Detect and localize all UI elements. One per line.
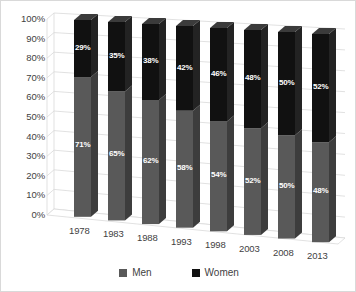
- y-axis-tick-0pct: 0%: [3, 210, 45, 219]
- data-label-men: 58%: [177, 163, 192, 172]
- y-axis-tick-90pct: 90%: [3, 34, 45, 43]
- x-axis-tick-2013: 2013: [307, 250, 328, 261]
- bar-side-men: [227, 116, 234, 232]
- y-axis-tick-40pct: 40%: [3, 132, 45, 141]
- data-label-men: 50%: [279, 181, 294, 190]
- bar-side-women: [261, 24, 268, 128]
- chart-svg: [1, 1, 356, 292]
- legend-swatch-men-icon: [119, 269, 127, 277]
- bar-side-women: [295, 26, 302, 135]
- legend-label: Women: [205, 267, 239, 278]
- x-axis-tick-2003: 2003: [239, 243, 260, 254]
- y-axis-tick-70pct: 70%: [3, 73, 45, 82]
- data-label-men: 48%: [313, 186, 328, 195]
- y-axis: 100%90%80%70%60%50%40%30%20%10%0%: [1, 1, 45, 292]
- chart-container: 100%90%80%70%60%50%40%30%20%10%0% 197819…: [0, 0, 356, 292]
- data-label-men: 71%: [75, 140, 90, 149]
- data-label-women: 38%: [143, 56, 158, 65]
- data-label-women: 52%: [313, 82, 328, 91]
- data-label-women: 46%: [211, 69, 226, 78]
- data-label-men: 65%: [109, 149, 124, 158]
- bar-side-women: [329, 28, 336, 142]
- data-label-men: 54%: [211, 170, 226, 179]
- y-axis-tick-10pct: 10%: [3, 190, 45, 199]
- bars-group: [74, 14, 336, 242]
- data-label-women: 42%: [177, 63, 192, 72]
- x-axis-tick-2008: 2008: [273, 247, 294, 258]
- x-axis-tick-1993: 1993: [171, 236, 192, 247]
- bar-side-men: [159, 94, 166, 224]
- x-axis-tick-1983: 1983: [103, 228, 124, 239]
- plot-area: [1, 1, 356, 292]
- bar-side-women: [193, 20, 200, 111]
- x-axis-tick-1998: 1998: [205, 239, 226, 250]
- bar-side-women: [125, 16, 132, 91]
- y-axis-tick-100pct: 100%: [3, 14, 45, 23]
- bar-side-men: [125, 85, 132, 220]
- y-axis-tick-60pct: 60%: [3, 92, 45, 101]
- legend-label: Men: [132, 267, 151, 278]
- bar-side-women: [159, 18, 166, 100]
- x-axis-tick-1978: 1978: [69, 225, 90, 236]
- data-label-men: 62%: [143, 156, 158, 165]
- x-axis-tick-1988: 1988: [137, 232, 158, 243]
- data-label-women: 29%: [75, 43, 90, 52]
- legend-item-women[interactable]: Women: [192, 267, 239, 278]
- bar-side-women: [227, 22, 234, 122]
- legend-item-men[interactable]: Men: [119, 267, 151, 278]
- bar-side-men: [329, 136, 336, 242]
- legend-swatch-women-icon: [192, 269, 200, 277]
- bar-side-men: [295, 129, 302, 238]
- y-axis-tick-30pct: 30%: [3, 151, 45, 160]
- bar-side-men: [91, 71, 98, 217]
- chart-legend: MenWomen: [1, 267, 356, 278]
- data-label-women: 48%: [245, 73, 260, 82]
- y-axis-tick-80pct: 80%: [3, 53, 45, 62]
- bar-side-men: [193, 105, 200, 228]
- data-label-men: 52%: [245, 176, 260, 185]
- data-label-women: 50%: [279, 78, 294, 87]
- y-axis-tick-20pct: 20%: [3, 171, 45, 180]
- data-label-women: 35%: [109, 51, 124, 60]
- bar-side-women: [91, 14, 98, 77]
- y-axis-tick-50pct: 50%: [3, 112, 45, 121]
- bar-side-men: [261, 122, 268, 235]
